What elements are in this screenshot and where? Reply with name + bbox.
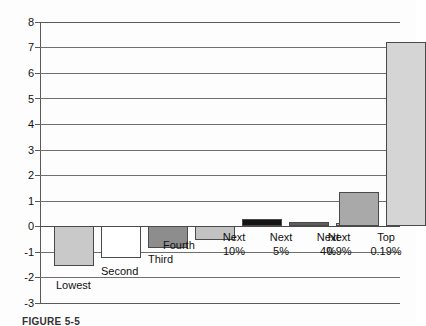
bar-second[interactable] bbox=[101, 226, 141, 258]
gridline-minus-2 bbox=[40, 277, 400, 278]
bar-next-0-9pct[interactable] bbox=[339, 192, 379, 226]
y-tick-label-7: 7 bbox=[20, 42, 34, 53]
gridline-7 bbox=[40, 47, 400, 48]
cat-label-fourth-text: Fourth bbox=[163, 239, 195, 251]
cat-label-next-10pct-line1: Next bbox=[223, 231, 246, 243]
cat-label-second: Second bbox=[101, 266, 161, 277]
cat-label-lowest: Lowest bbox=[56, 280, 116, 291]
gridline-2 bbox=[40, 175, 400, 176]
cat-label-next-5pct: Next 5% bbox=[259, 232, 303, 257]
gridline-4 bbox=[40, 124, 400, 125]
y-tick-label-5: 5 bbox=[20, 94, 34, 105]
figure-caption: FIGURE 5-5 bbox=[22, 316, 80, 326]
bar-next-10pct[interactable] bbox=[242, 219, 282, 226]
cat-label-next-5pct-line2: 5% bbox=[259, 246, 303, 257]
y-tick-label-minus-3: -3 bbox=[14, 298, 34, 309]
y-tick-label-minus-1: -1 bbox=[14, 247, 34, 258]
cat-label-top-0-19pct-line1: Top bbox=[377, 231, 395, 243]
y-tick-label-minus-2: -2 bbox=[14, 272, 34, 283]
bar-lowest[interactable] bbox=[54, 226, 94, 266]
bar-next-5pct[interactable] bbox=[289, 222, 329, 226]
cat-label-third: Third bbox=[148, 254, 208, 265]
cat-label-next-0-9pct-line1: Next bbox=[328, 231, 351, 243]
y-tick-label-3: 3 bbox=[20, 145, 34, 156]
y-tick-label-2: 2 bbox=[20, 170, 34, 181]
cat-label-lowest-text: Lowest bbox=[56, 279, 91, 291]
gridline-5 bbox=[40, 98, 400, 99]
cat-label-second-text: Second bbox=[101, 265, 138, 277]
cat-label-top-0-19pct: Top 0.19% bbox=[362, 232, 410, 257]
gridline-8 bbox=[40, 22, 400, 23]
gridline-3 bbox=[40, 150, 400, 151]
gridline-minus-3 bbox=[40, 303, 400, 304]
cat-label-next-5pct-line1: Next bbox=[270, 231, 293, 243]
plot-area bbox=[40, 22, 400, 303]
y-tick-label-6: 6 bbox=[20, 68, 34, 79]
cat-label-next-10pct: Next 10% bbox=[212, 232, 256, 257]
bar-top-019pct[interactable] bbox=[386, 42, 426, 226]
cat-label-top-0-19pct-line2: 0.19% bbox=[362, 246, 410, 257]
y-tick-label-1: 1 bbox=[20, 196, 34, 207]
gridline-6 bbox=[40, 73, 400, 74]
y-tick-label-4: 4 bbox=[20, 119, 34, 130]
cat-label-next-0-9pct-line2: 0.9% bbox=[317, 246, 361, 257]
cat-label-third-text: Third bbox=[148, 253, 173, 265]
y-tick-label-0: 0 bbox=[20, 221, 34, 232]
cat-label-next-0-9pct: Next 0.9% bbox=[317, 232, 361, 257]
cat-label-next-10pct-line2: 10% bbox=[212, 246, 256, 257]
y-tick-label-8: 8 bbox=[20, 17, 34, 28]
